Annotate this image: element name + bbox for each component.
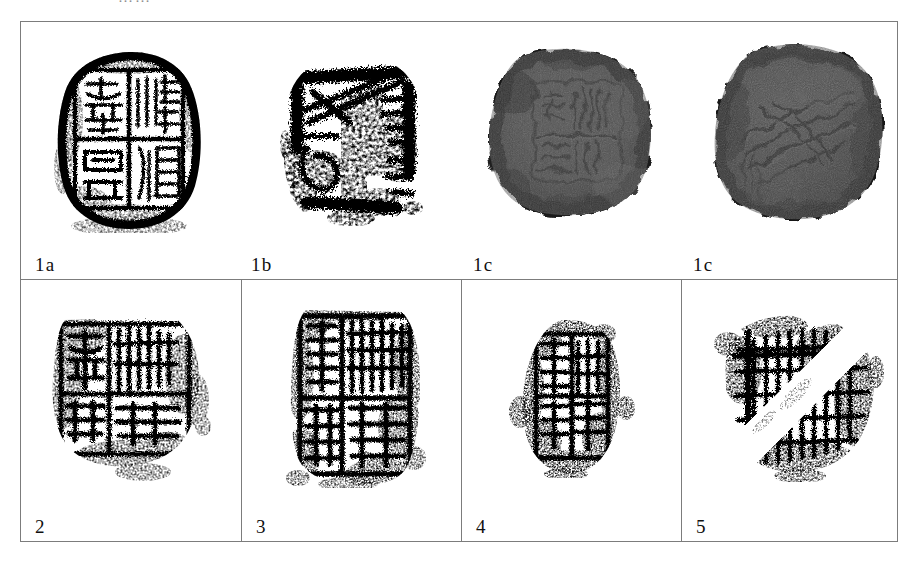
clay-sealing-photo-1c-reverse <box>701 36 919 230</box>
plate-row-top: 1a <box>21 22 897 280</box>
figure-label-1c-reverse: 1c <box>693 255 713 274</box>
figure-cell-1c-reverse: 1c <box>681 22 899 279</box>
clay-sealing-photo-1c-obverse <box>477 38 697 228</box>
figure-plate: 1a <box>20 21 898 542</box>
figure-label-1b: 1b <box>251 255 272 274</box>
figure-label-1c-obverse: 1c <box>473 255 493 274</box>
seal-rubbing-2 <box>47 314 267 482</box>
figure-label-3: 3 <box>256 517 267 536</box>
bottom-cutoff-caption-strip <box>0 548 921 565</box>
figure-cell-4: 4 <box>461 280 681 541</box>
figure-cell-3: 3 <box>241 280 461 541</box>
figure-label-1a: 1a <box>35 255 55 274</box>
seal-rubbing-5 <box>712 310 921 482</box>
figure-cell-1b: 1b <box>237 22 461 279</box>
figure-label-4: 4 <box>476 517 487 536</box>
figure-cell-2: 2 <box>21 280 241 541</box>
figure-cell-1c-obverse: 1c <box>461 22 681 279</box>
top-cutoff-text: …… <box>118 0 152 6</box>
plate-row-bottom: 2 <box>21 280 897 541</box>
figure-label-2: 2 <box>35 517 46 536</box>
top-cutoff-text-strip: …… <box>0 0 921 16</box>
figure-cell-5: 5 <box>681 280 899 541</box>
figure-cell-1a: 1a <box>21 22 237 279</box>
figure-label-5: 5 <box>696 517 707 536</box>
